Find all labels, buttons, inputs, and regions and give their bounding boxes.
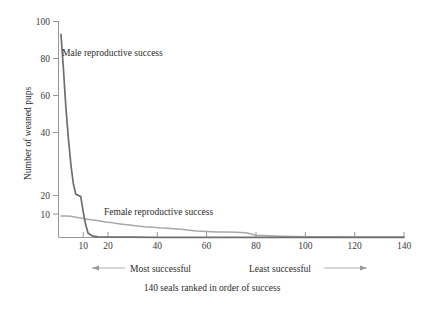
y-tick-label-40: 40 <box>41 128 51 138</box>
x-tick-label-140: 140 <box>397 241 412 251</box>
x-tick-label-120: 120 <box>348 241 363 251</box>
x-tick-label-20: 20 <box>103 241 113 251</box>
seal-reproductive-success-chart: Number of weaned pups 100 80 60 40 20 10… <box>0 0 425 310</box>
least-successful-label: Least successful <box>249 264 311 274</box>
female-series-label: Female reproductive success <box>104 207 214 217</box>
x-tick-label-40: 40 <box>153 241 163 251</box>
y-tick-label-20: 20 <box>41 191 51 201</box>
y-tick-label-10: 10 <box>41 210 51 220</box>
chart-background <box>0 0 425 310</box>
y-tick-label-100: 100 <box>36 17 51 27</box>
y-axis-title: Number of weaned pups <box>23 87 33 180</box>
chart-figure: Number of weaned pups 100 80 60 40 20 10… <box>0 0 425 310</box>
male-series-label: Male reproductive success <box>62 48 163 58</box>
y-tick-label-60: 60 <box>41 91 51 101</box>
most-successful-label: Most successful <box>130 264 191 274</box>
x-tick-label-60: 60 <box>202 241 212 251</box>
x-tick-label-100: 100 <box>298 241 313 251</box>
x-axis-caption: 140 seals ranked in order of success <box>144 283 281 293</box>
x-tick-label-10: 10 <box>78 241 88 251</box>
y-tick-label-80: 80 <box>41 54 51 64</box>
x-tick-label-80: 80 <box>251 241 261 251</box>
